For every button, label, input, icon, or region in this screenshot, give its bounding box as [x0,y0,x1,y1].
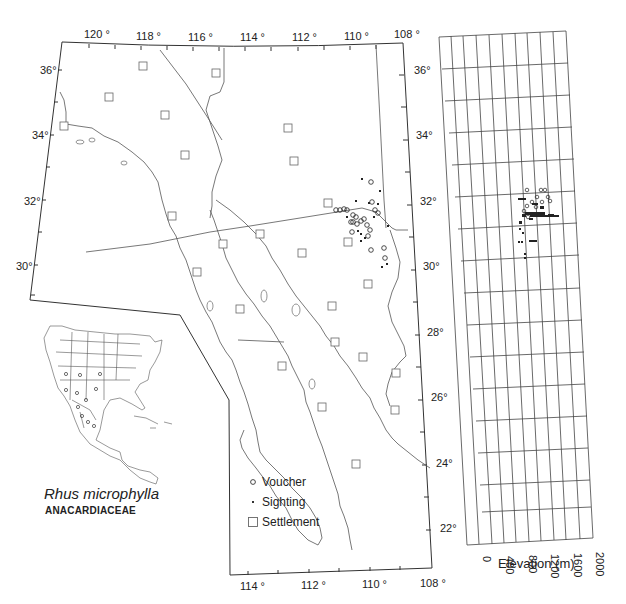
elev-tick-2000: 2000 [594,552,606,576]
lon-112: 112 ° [292,31,317,43]
lon-114: 114 ° [240,31,265,43]
lon-116: 116 ° [188,31,213,43]
sighting-dot-icon [244,498,262,506]
lon-108: 108 ° [394,28,420,40]
settlement-square-icon [244,516,262,528]
lat-30-left: 30° [16,260,33,272]
inset-north-america-map [44,326,172,484]
right-latitude-labels: 36° 34° 32° 30° 28° 26° 24° 22° [414,64,457,534]
bottom-longitude-labels: 114 ° 112 ° 110 ° 108 ° [240,577,446,592]
lon-110-bottom: 110 ° [362,578,387,590]
lat-24-right: 24° [436,457,453,469]
lat-36-right: 36° [414,64,431,76]
family-name: ANACARDIACEAE [45,505,136,516]
elevation-grid [439,31,593,545]
lat-34-left: 34° [32,129,49,141]
species-name: Rhus microphylla [44,485,159,502]
lat-32-right: 32° [420,195,437,207]
lon-114-bottom: 114 ° [240,580,265,592]
legend-item-sighting: Sighting [244,492,319,512]
lat-26-right: 26° [431,391,448,403]
lon-112-bottom: 112 ° [301,579,326,591]
lat-28-right: 28° [427,326,444,338]
left-ticks [31,70,62,295]
legend-label-voucher: Voucher [262,475,306,489]
legend-item-settlement: Settlement [244,512,319,532]
voucher-circle-icon [244,478,262,486]
elevation-axis-label: Elevation (m) [498,556,575,571]
legend-label-settlement: Settlement [262,515,319,529]
lon-118: 118 ° [136,30,161,42]
lat-22-right: 22° [440,522,457,534]
left-latitude-labels: 36° 34° 32° 30° [16,64,57,272]
top-longitude-labels: 120 ° 118 ° 116 ° 114 ° 112 ° 110 ° 108 … [84,28,420,43]
lon-110: 110 ° [344,30,369,42]
lon-120: 120 ° [84,28,110,40]
legend: Voucher Sighting Settlement [244,472,319,532]
lon-108-bottom: 108 ° [420,577,446,589]
lat-30-right: 30° [423,260,440,272]
legend-item-voucher: Voucher [244,472,319,492]
inset-range-markers [64,372,101,427]
lat-34-right: 34° [416,129,433,141]
lat-36-left: 36° [40,64,57,76]
lat-32-left: 32° [24,195,41,207]
elev-tick-0: 0 [481,556,493,562]
islands [76,138,315,389]
legend-label-sighting: Sighting [262,495,305,509]
settlements [60,62,400,468]
